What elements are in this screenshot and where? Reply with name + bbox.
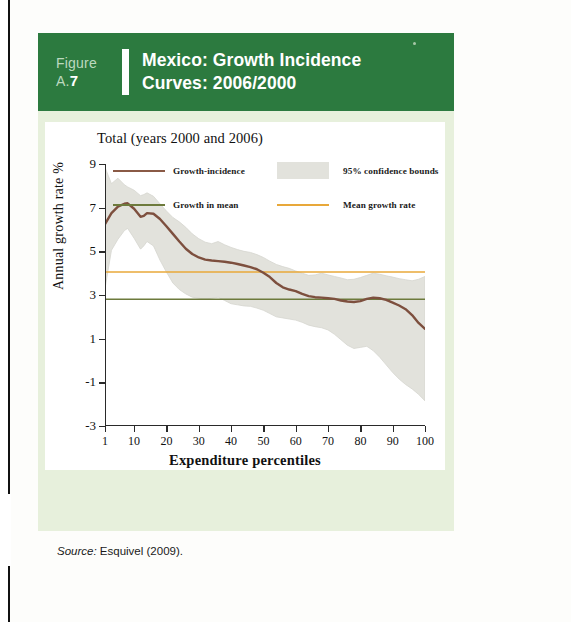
- y-tick-label: -3: [85, 418, 96, 434]
- x-tick-label: 20: [160, 434, 172, 449]
- x-tick: [231, 426, 232, 432]
- x-tick: [328, 426, 329, 432]
- x-tick-label: 50: [257, 434, 269, 449]
- x-axis-line: [105, 425, 425, 426]
- y-axis-line: [105, 164, 106, 426]
- y-axis-title: Annual growth rate %: [51, 162, 67, 290]
- figure-title: Mexico: Growth Incidence Curves: 2006/20…: [142, 49, 361, 95]
- x-tick-label: 60: [290, 434, 302, 449]
- plot-area: 97531-1-3 1102030405060708090100: [105, 164, 425, 426]
- x-tick-label: 40: [225, 434, 237, 449]
- source-label: Source:: [57, 545, 97, 557]
- y-tick-label: 9: [90, 156, 97, 172]
- x-tick: [425, 426, 426, 432]
- figure-title-line2: Curves: 2006/2000: [142, 72, 361, 95]
- chart-card: Total (years 2000 and 2006) Annual growt…: [45, 122, 445, 470]
- x-tick-label: 10: [128, 434, 140, 449]
- y-tick: [99, 382, 105, 383]
- figure-header: Figure A.7 Mexico: Growth Incidence Curv…: [38, 33, 454, 111]
- y-tick: [99, 295, 105, 296]
- figure-number-value: 7: [70, 72, 79, 89]
- x-tick: [393, 426, 394, 432]
- chart-svg: [105, 164, 425, 426]
- x-axis-title: Expenditure percentiles: [45, 452, 445, 469]
- x-tick-label: 80: [354, 434, 366, 449]
- figure-number-label: Figure: [56, 55, 97, 71]
- x-tick: [166, 426, 167, 432]
- y-tick-label: 7: [90, 200, 97, 216]
- x-tick-label: 1: [102, 434, 108, 449]
- figure-number-prefix: A.: [56, 73, 70, 89]
- y-tick-label: 3: [90, 287, 97, 303]
- source-note: Source: Esquivel (2009).: [57, 545, 183, 557]
- x-tick: [199, 426, 200, 432]
- x-tick-label: 70: [322, 434, 334, 449]
- x-tick-label: 100: [416, 434, 434, 449]
- source-text: Esquivel (2009).: [100, 545, 183, 557]
- y-tick-label: 5: [90, 243, 97, 259]
- figure-page: Figure A.7 Mexico: Growth Incidence Curv…: [0, 0, 571, 622]
- page-edge-gap: [8, 494, 11, 566]
- header-speck: [413, 42, 416, 45]
- x-tick: [134, 426, 135, 432]
- y-tick: [99, 251, 105, 252]
- x-tick: [263, 426, 264, 432]
- figure-header-divider: [122, 49, 129, 95]
- x-tick-label: 30: [193, 434, 205, 449]
- x-tick-label: 90: [387, 434, 399, 449]
- x-tick: [105, 426, 106, 432]
- chart-title: Total (years 2000 and 2006): [97, 130, 263, 147]
- y-tick: [99, 208, 105, 209]
- y-tick: [99, 339, 105, 340]
- figure-title-line1: Mexico: Growth Incidence: [142, 49, 361, 72]
- y-tick: [99, 164, 105, 165]
- x-tick: [360, 426, 361, 432]
- figure-number: Figure A.7: [38, 55, 118, 90]
- confidence-band: [105, 167, 425, 401]
- x-tick: [296, 426, 297, 432]
- y-tick-label: 1: [90, 331, 97, 347]
- y-tick-label: -1: [85, 374, 96, 390]
